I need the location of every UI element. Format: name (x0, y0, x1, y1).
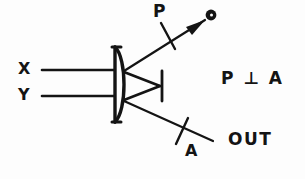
optical-diagram-svg (0, 0, 305, 179)
internal-ray-upper (124, 72, 160, 86)
label-analyzer-a: A (185, 143, 198, 159)
label-perpendicular-relation: P ⊥ A (221, 70, 284, 87)
detector-dot-center-highlight (210, 14, 213, 17)
internal-ray-lower (124, 86, 160, 100)
label-input-x: X (18, 61, 31, 77)
beam-path-a (124, 101, 213, 141)
beam-arrowhead (186, 20, 205, 35)
label-output: OUT (228, 131, 272, 148)
label-input-y: Y (18, 87, 30, 103)
label-polarizer-p: P (153, 3, 166, 20)
diagram-canvas: X Y P A OUT P ⊥ A (0, 0, 305, 179)
